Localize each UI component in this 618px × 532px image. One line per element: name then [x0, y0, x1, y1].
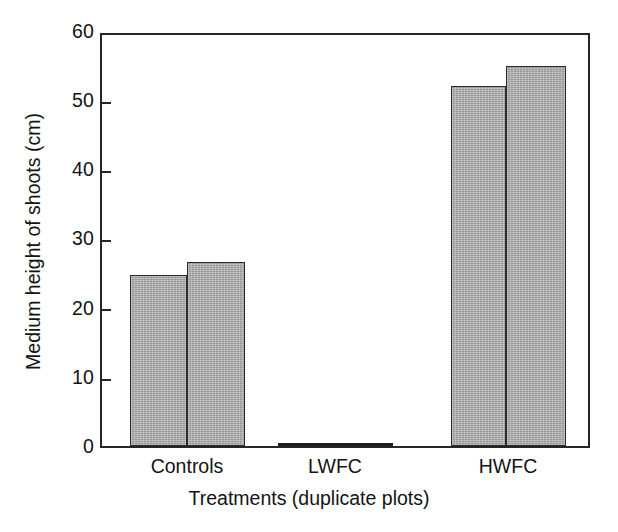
- y-axis-title: Medium height of shoots (cm): [22, 92, 45, 392]
- ytick-label-20: 20: [72, 297, 94, 320]
- ytick-mark-30: [102, 240, 111, 242]
- ytick-mark-20: [102, 309, 111, 311]
- ytick-label-30: 30: [72, 227, 94, 250]
- xcat-label-hwfc: HWFC: [438, 455, 578, 478]
- bar-lwfc-2: [335, 443, 393, 446]
- plot-area: [100, 33, 590, 448]
- ytick-label-60: 60: [72, 20, 94, 43]
- ytick-label-50: 50: [72, 89, 94, 112]
- ytick-label-40: 40: [72, 158, 94, 181]
- ytick-mark-10: [102, 379, 111, 381]
- xcat-label-controls: Controls: [117, 455, 257, 478]
- ytick-label-10: 10: [72, 366, 94, 389]
- bar-controls-2: [187, 262, 245, 446]
- bar-hwfc-1: [451, 86, 506, 446]
- bar-chart-figure: 60 50 40 30 20 10 0 Controls LWFC HWFC T…: [0, 0, 618, 532]
- bar-lwfc-1: [278, 443, 335, 446]
- x-axis-title: Treatments (duplicate plots): [0, 487, 618, 510]
- bar-hwfc-2: [506, 66, 566, 446]
- xcat-label-lwfc: LWFC: [265, 455, 405, 478]
- ytick-mark-40: [102, 171, 111, 173]
- bar-controls-1: [130, 275, 187, 446]
- ytick-mark-50: [102, 102, 111, 104]
- ytick-label-0: 0: [83, 435, 94, 458]
